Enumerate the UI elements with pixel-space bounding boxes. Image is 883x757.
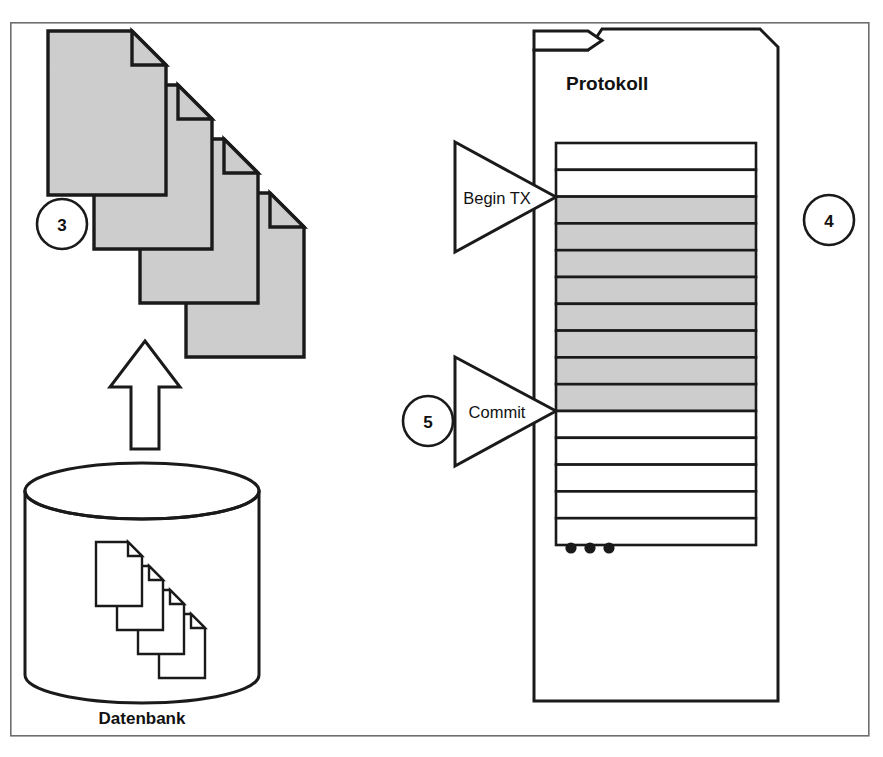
- log-heading: Protokoll: [566, 73, 648, 94]
- document-stack: [48, 31, 304, 357]
- database-document-page: [96, 542, 142, 606]
- log-row: [556, 143, 756, 170]
- log-row: [556, 197, 756, 224]
- begin-tx-label: Begin TX: [463, 189, 531, 207]
- log-tab: [534, 31, 602, 50]
- upload-arrow-icon: [110, 341, 180, 449]
- step-marker-label: 3: [57, 216, 66, 235]
- log-row: [556, 331, 756, 358]
- log-row: [556, 277, 756, 304]
- ellipsis-dots: [565, 542, 614, 553]
- log-row: [556, 170, 756, 197]
- ellipsis-dot: [584, 542, 595, 553]
- log-row: [556, 304, 756, 331]
- log-rows: [556, 143, 756, 545]
- log-row: [556, 518, 756, 545]
- log-row: [556, 438, 756, 465]
- database-cylinder: [25, 463, 259, 703]
- log-row: [556, 250, 756, 277]
- log-row: [556, 384, 756, 411]
- transaction-log-diagram: 3: [0, 0, 883, 757]
- ellipsis-dot: [565, 542, 576, 553]
- step-marker-5: 5: [403, 396, 453, 446]
- step-marker-label: 4: [824, 212, 834, 231]
- step-marker-label: 5: [423, 413, 432, 432]
- log-row: [556, 465, 756, 492]
- ellipsis-dot: [603, 542, 614, 553]
- log-row: [556, 223, 756, 250]
- log-row: [556, 357, 756, 384]
- step-marker-3: 3: [37, 199, 87, 249]
- document-page: [48, 31, 166, 195]
- commit-label: Commit: [469, 403, 526, 421]
- database-caption: Datenbank: [99, 709, 186, 728]
- diagram-canvas: 3: [0, 0, 883, 757]
- log-row: [556, 411, 756, 438]
- step-marker-4: 4: [804, 195, 854, 245]
- log-row: [556, 491, 756, 518]
